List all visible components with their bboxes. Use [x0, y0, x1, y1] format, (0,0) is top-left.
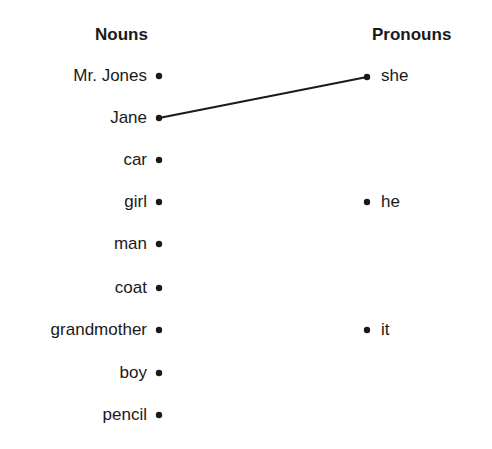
pronoun-dot[interactable]	[364, 74, 370, 80]
noun-dot[interactable]	[156, 285, 162, 291]
noun-dot[interactable]	[156, 412, 162, 418]
matching-diagram	[0, 0, 492, 449]
pronoun-dot[interactable]	[364, 327, 370, 333]
noun-dot[interactable]	[156, 241, 162, 247]
noun-dot[interactable]	[156, 157, 162, 163]
noun-dot[interactable]	[156, 73, 162, 79]
pronoun-dot[interactable]	[364, 199, 370, 205]
noun-dot[interactable]	[156, 327, 162, 333]
connection-line-jane-she[interactable]	[159, 77, 367, 118]
noun-dot[interactable]	[156, 370, 162, 376]
noun-dot[interactable]	[156, 115, 162, 121]
noun-dot[interactable]	[156, 199, 162, 205]
